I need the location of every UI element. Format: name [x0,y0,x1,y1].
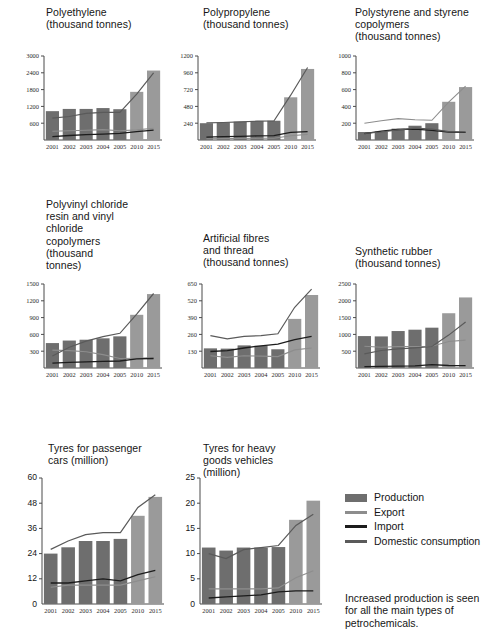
svg-text:800: 800 [341,69,351,76]
bar-2005 [425,328,438,368]
svg-text:900: 900 [29,314,39,321]
bar-2015 [306,501,320,604]
bar-2003 [79,541,93,604]
bar-2004 [408,330,421,368]
svg-text:2003: 2003 [80,143,93,150]
svg-text:1500: 1500 [338,314,351,321]
svg-text:2005: 2005 [425,371,438,378]
svg-text:720: 720 [183,86,193,93]
legend-swatch-icon [345,494,367,502]
bar-2004 [96,541,110,604]
chart-panel-synthetic-rubber: Synthetic rubber (thousand tonnes) [355,245,480,269]
bar-2002 [61,547,75,604]
svg-text:500: 500 [341,348,351,355]
svg-text:24: 24 [27,548,37,558]
svg-text:2010: 2010 [130,143,143,150]
svg-text:2005: 2005 [271,371,284,378]
chart-svg-tyres-heavy-goods: 51015202502001200220032004200520102015 [176,470,326,620]
svg-text:2002: 2002 [63,143,76,150]
legend-line-icon [345,540,367,543]
svg-text:240: 240 [183,120,193,127]
svg-text:1800: 1800 [26,86,39,93]
svg-text:2003: 2003 [234,143,247,150]
svg-text:2005: 2005 [425,143,438,150]
bar-2004 [254,346,267,368]
svg-text:2001: 2001 [46,143,59,150]
chart-title: Synthetic rubber (thousand tonnes) [355,245,480,269]
svg-text:2015: 2015 [307,607,320,614]
svg-text:600: 600 [29,120,39,127]
svg-text:2500: 2500 [338,280,351,287]
bar-2001 [358,336,371,368]
legend-item: Production [345,492,480,503]
svg-text:2002: 2002 [375,143,388,150]
svg-text:1200: 1200 [26,297,39,304]
bar-2001 [202,548,216,604]
svg-text:1200: 1200 [180,52,193,59]
bar-2003 [234,122,247,140]
svg-text:960: 960 [183,69,193,76]
legend-item-label: Domestic consumption [374,536,480,547]
svg-text:2005: 2005 [272,607,285,614]
chart-title: Polyethylene (thousand tonnes) [46,6,176,30]
bar-2015 [147,71,160,140]
bar-2005 [113,109,126,140]
svg-text:2015: 2015 [459,143,472,150]
svg-text:2002: 2002 [220,607,233,614]
chart-panel-tyres-passenger-cars: Tyres for passenger cars (million) [48,442,183,466]
bar-2015 [147,294,160,368]
chart-svg-polypropylene: 2404807209601200200120022003200420052010… [172,48,320,156]
chart-svg-pvc: 3006009001200150020012002200320042005201… [18,276,166,384]
svg-text:20: 20 [185,498,195,508]
bar-2010 [288,319,301,368]
svg-text:2004: 2004 [97,371,111,378]
legend-item: Export [345,507,480,518]
svg-text:2015: 2015 [147,371,160,378]
bar-2005 [114,539,128,604]
svg-text:2003: 2003 [392,143,405,150]
bar-2010 [131,516,145,604]
svg-text:0: 0 [190,599,195,609]
bar-2005 [113,336,126,368]
svg-text:2010: 2010 [442,143,455,150]
svg-text:48: 48 [27,498,37,508]
chart-panel-polyethylene: Polyethylene (thousand tonnes) [46,6,176,30]
svg-text:390: 390 [187,314,197,321]
svg-text:2003: 2003 [392,371,405,378]
bar-2015 [305,295,318,368]
svg-text:1000: 1000 [338,52,351,59]
svg-text:2002: 2002 [217,143,230,150]
chart-svg-artificial-fibres: 1302603905206502001200220032004200520102… [176,276,324,384]
bar-2002 [375,336,388,368]
chart-title: Polypropylene (thousand tonnes) [203,6,338,30]
svg-text:60: 60 [27,472,37,482]
svg-text:2003: 2003 [79,607,92,614]
svg-text:2005: 2005 [113,371,126,378]
svg-text:36: 36 [27,523,37,533]
chart-svg-polystyrene: 2004006008001000200120022003200420052010… [330,48,478,156]
svg-text:600: 600 [29,331,39,338]
svg-text:2010: 2010 [131,607,144,614]
svg-text:400: 400 [341,103,351,110]
svg-text:2010: 2010 [288,371,301,378]
svg-text:2001: 2001 [358,143,371,150]
chart-title: Polystyrene and styrene copolymers (thou… [355,6,481,43]
chart-panel-polystyrene: Polystyrene and styrene copolymers (thou… [355,6,481,43]
svg-text:2004: 2004 [97,143,111,150]
svg-text:480: 480 [183,103,193,110]
svg-text:1200: 1200 [26,103,39,110]
svg-text:2004: 2004 [409,143,423,150]
chart-svg-polyethylene: 6001200180024003000200120022003200420052… [18,48,166,156]
chart-plot-pvc: 3006009001200150020012002200320042005201… [18,276,166,384]
bar-2002 [221,349,234,368]
svg-text:10: 10 [185,548,195,558]
bar-2005 [272,547,286,604]
chart-svg-synthetic-rubber: 5001000150020002500200120022003200420052… [330,276,478,384]
bar-2002 [63,341,76,368]
svg-text:2010: 2010 [130,371,143,378]
bar-2015 [148,497,162,604]
svg-text:25: 25 [185,472,195,482]
svg-text:200: 200 [341,120,351,127]
chart-panel-polypropylene: Polypropylene (thousand tonnes) [203,6,338,30]
svg-text:2015: 2015 [459,371,472,378]
